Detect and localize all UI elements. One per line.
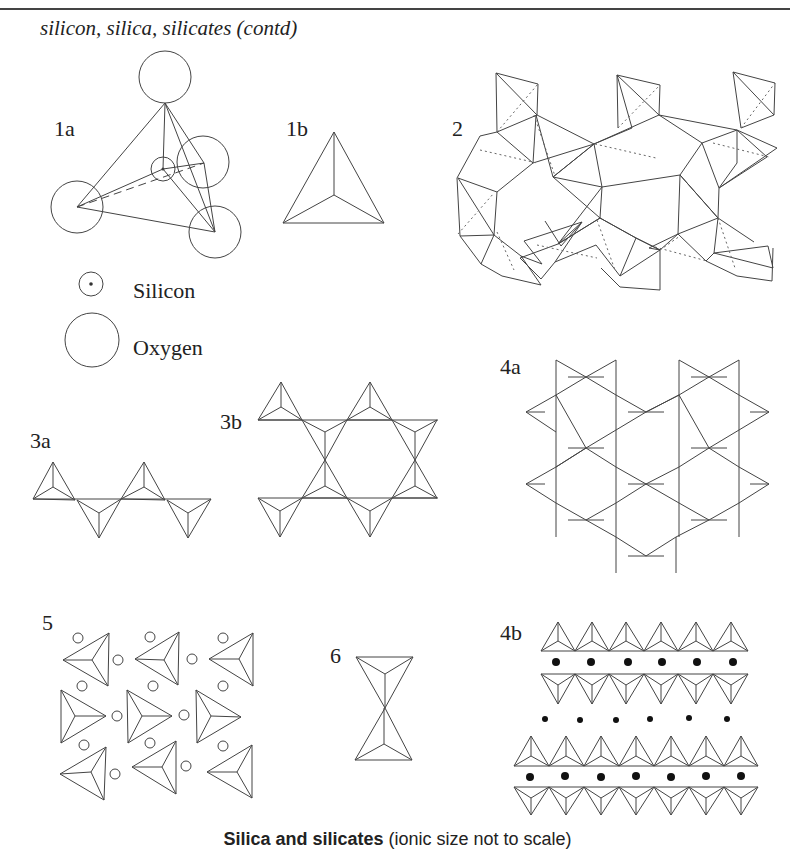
oxygen-atom-icon [65,313,119,367]
figure-2-framework [457,72,777,290]
figure-5-isolated-tetrahedra [60,632,253,800]
caption-note: (ionic size not to scale) [384,829,572,849]
figure-6-tetrahedron-pair [355,657,413,760]
figure-caption: Silica and silicates (ionic size not to … [0,829,795,850]
silicon-atom-icon [79,272,103,296]
figure-4a-sheet [526,360,769,573]
figure-3a-single-chain [33,462,211,538]
figure-4b-layered-sheets [514,622,758,815]
silicate-structures-diagram [0,0,795,850]
figure-1a-tetrahedron [51,51,241,258]
caption-title: Silica and silicates [223,829,383,849]
figure-1b-tetrahedron [283,132,384,223]
figure-3b-ring [258,382,438,537]
